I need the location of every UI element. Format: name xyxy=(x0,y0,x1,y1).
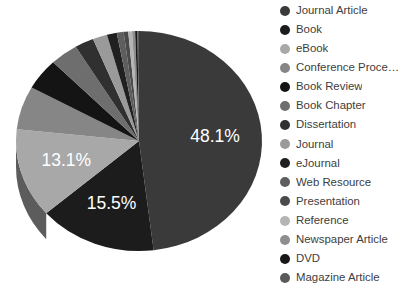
legend-swatch-circle-icon xyxy=(280,235,290,245)
legend-item[interactable]: Presentation xyxy=(278,192,407,211)
legend-swatch-circle-icon xyxy=(280,158,290,168)
legend-item-label: Dissertation xyxy=(296,119,356,130)
legend-item-label: Presentation xyxy=(296,196,360,207)
legend-swatch-circle-icon xyxy=(280,216,290,226)
legend-item[interactable]: Journal Article xyxy=(278,1,407,20)
legend-swatch-circle-icon xyxy=(280,63,290,73)
pie-chart-figure: 48.1%15.5%13.1% Journal ArticleBookeBook… xyxy=(0,0,407,293)
legend-item-label: Magazine Article xyxy=(296,272,380,283)
chart-legend: Journal ArticleBookeBookConference Proce… xyxy=(278,0,407,293)
legend-swatch-circle-icon xyxy=(280,25,290,35)
legend-item[interactable]: eJournal xyxy=(278,154,407,173)
legend-item[interactable]: Book Chapter xyxy=(278,96,407,115)
pie-slice-percentage-label: 15.5% xyxy=(87,193,137,213)
legend-swatch-circle-icon xyxy=(280,82,290,92)
legend-item-label: eJournal xyxy=(296,158,340,169)
legend-swatch-circle-icon xyxy=(280,177,290,187)
legend-item-label: Reference xyxy=(296,215,349,226)
legend-item[interactable]: Book xyxy=(278,20,407,39)
legend-swatch-circle-icon xyxy=(280,6,290,16)
legend-item-label: Book Review xyxy=(296,81,362,92)
legend-item-label: Journal Article xyxy=(296,5,368,16)
legend-item[interactable]: Conference Proce… xyxy=(278,58,407,77)
legend-swatch-circle-icon xyxy=(280,196,290,206)
legend-item[interactable]: Web Resource xyxy=(278,173,407,192)
pie-slice-percentage-label: 48.1% xyxy=(190,126,240,146)
legend-item-label: Book Chapter xyxy=(296,100,366,111)
legend-swatch-circle-icon xyxy=(280,254,290,264)
legend-swatch-circle-icon xyxy=(280,101,290,111)
legend-swatch-circle-icon xyxy=(280,44,290,54)
legend-item-label: Web Resource xyxy=(296,177,371,188)
legend-item-label: Newspaper Article xyxy=(296,234,388,245)
legend-item[interactable]: Dissertation xyxy=(278,116,407,135)
pie-chart-svg: 48.1%15.5%13.1% xyxy=(0,0,278,293)
legend-swatch-circle-icon xyxy=(280,273,290,283)
legend-item-label: Book xyxy=(296,24,322,35)
pie-chart-plot-area: 48.1%15.5%13.1% xyxy=(0,0,278,293)
legend-swatch-circle-icon xyxy=(280,139,290,149)
legend-item[interactable]: Magazine Article xyxy=(278,268,407,287)
legend-swatch-circle-icon xyxy=(280,120,290,130)
legend-item[interactable]: Reference xyxy=(278,211,407,230)
legend-item-label: DVD xyxy=(296,253,320,264)
legend-item[interactable]: eBook xyxy=(278,39,407,58)
legend-item[interactable]: Newspaper Article xyxy=(278,230,407,249)
pie-slice-percentage-label: 13.1% xyxy=(41,150,91,170)
legend-item[interactable]: Book Review xyxy=(278,77,407,96)
legend-item-label: eBook xyxy=(296,43,328,54)
legend-item-label: Journal xyxy=(296,139,333,150)
legend-item[interactable]: Journal xyxy=(278,135,407,154)
legend-item[interactable]: DVD xyxy=(278,249,407,268)
legend-item-label: Conference Proce… xyxy=(296,62,399,73)
